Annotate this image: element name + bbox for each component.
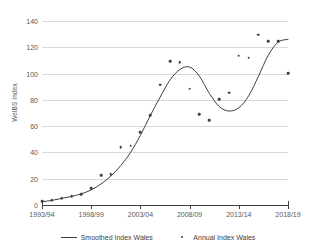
legend-dot-swatch-icon	[181, 236, 184, 239]
data-point	[218, 98, 221, 101]
plot-area	[42, 21, 288, 205]
data-point	[247, 56, 250, 59]
y-tick-label-40: 40	[4, 149, 38, 156]
data-point	[287, 72, 290, 75]
legend-label: Smoothed Index Wales	[81, 234, 153, 241]
data-point	[149, 114, 152, 117]
data-point	[60, 197, 63, 200]
x-tick-label-2008/09: 2008/09	[168, 211, 212, 219]
y-tick-label-140: 140	[4, 18, 38, 25]
y-axis-tick-labels: 020406080100120140	[0, 21, 38, 205]
x-axis-endcap-start	[42, 201, 43, 206]
data-point	[129, 145, 132, 148]
legend-entry-1[interactable]: Smoothed Index Wales	[61, 234, 153, 241]
data-point	[90, 187, 93, 190]
x-tick-2003/04	[140, 205, 141, 209]
data-point	[70, 195, 73, 198]
data-point	[100, 174, 103, 177]
x-axis-line	[42, 205, 288, 206]
legend-label: Annual Index Wales	[193, 234, 255, 241]
data-point	[110, 173, 113, 176]
data-point	[257, 33, 260, 36]
data-point	[237, 55, 240, 58]
data-point	[188, 87, 191, 90]
data-point	[80, 193, 83, 196]
data-point	[178, 61, 181, 64]
y-tick-label-80: 80	[4, 96, 38, 103]
data-point	[139, 131, 142, 134]
data-point	[267, 40, 270, 43]
x-axis-endcap-end	[288, 201, 289, 206]
chart-figure: WelBS Index 020406080100120140 1993/9419…	[0, 0, 316, 251]
data-point	[159, 83, 162, 86]
x-tick-1998/99	[91, 205, 92, 209]
legend-line-swatch-icon	[61, 237, 77, 238]
smoothed-index-wales-line	[42, 21, 288, 205]
data-point	[198, 113, 201, 116]
x-tick-2008/09	[190, 205, 191, 209]
data-point	[277, 40, 280, 43]
data-point	[169, 60, 172, 63]
chart-legend: Smoothed Index WalesAnnual Index Wales	[0, 229, 316, 245]
y-tick-label-120: 120	[4, 44, 38, 51]
x-tick-label-2003/04: 2003/04	[118, 211, 162, 219]
y-tick-label-20: 20	[4, 175, 38, 182]
x-tick-label-2013/14: 2013/14	[217, 211, 261, 219]
x-tick-label-2018/19: 2018/19	[266, 211, 310, 219]
y-tick-label-100: 100	[4, 70, 38, 77]
data-point	[228, 91, 231, 94]
x-tick-2013/14	[239, 205, 240, 209]
x-tick-label-1993/94: 1993/94	[20, 211, 64, 219]
data-point	[208, 119, 211, 122]
x-tick-label-1998/99: 1998/99	[69, 211, 113, 219]
legend-entry-2[interactable]: Annual Index Wales	[175, 234, 256, 241]
data-point	[119, 146, 122, 149]
y-tick-label-60: 60	[4, 123, 38, 130]
data-point	[51, 199, 54, 202]
y-tick-label-0: 0	[4, 202, 38, 209]
